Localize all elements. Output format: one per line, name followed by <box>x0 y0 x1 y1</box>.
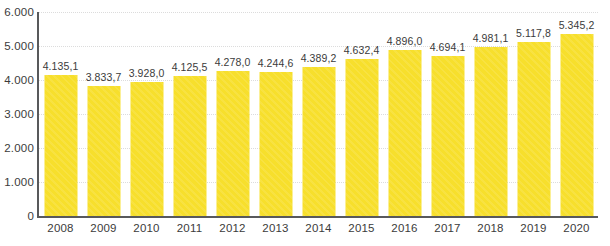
bar-group: 4.981,1 <box>469 12 512 216</box>
x-axis-tick-label: 2014 <box>305 222 331 234</box>
bar[interactable] <box>44 75 77 216</box>
x-axis-tick-label: 2016 <box>391 222 417 234</box>
y-axis-tick-label: 2.000 <box>2 142 34 154</box>
bar-chart: 6.000 5.000 4.000 3.000 2.000 1.000 0 4.… <box>0 0 610 246</box>
bar[interactable] <box>130 82 163 216</box>
bar-value-label: 3.928,0 <box>129 67 165 79</box>
x-axis-tick-label: 2009 <box>90 222 116 234</box>
bar-group: 3.928,0 <box>125 12 168 216</box>
x-axis-tick-label: 2019 <box>520 222 546 234</box>
bar-value-label: 5.117,8 <box>516 27 551 39</box>
bar-group: 3.833,7 <box>82 12 125 216</box>
bar-value-label: 4.135,1 <box>43 60 79 72</box>
x-axis-line <box>37 216 598 218</box>
bar-value-label: 4.694,1 <box>430 41 466 53</box>
x-axis-tick-label: 2018 <box>477 222 503 234</box>
bar-value-label: 4.389,2 <box>301 52 337 64</box>
bar-value-label: 4.981,1 <box>473 32 509 44</box>
bar-group: 4.244,6 <box>254 12 297 216</box>
x-axis-tick-label: 2013 <box>262 222 288 234</box>
bar-group: 5.117,8 <box>512 12 555 216</box>
bar-value-label: 4.244,6 <box>258 57 294 69</box>
bar-value-label: 3.833,7 <box>86 71 122 83</box>
bar-group: 5.345,2 <box>555 12 598 216</box>
bar[interactable] <box>388 50 421 216</box>
bar-group: 4.632,4 <box>340 12 383 216</box>
x-axis-tick-label: 2011 <box>177 222 203 234</box>
x-axis-tick-label: 2008 <box>47 222 73 234</box>
bar-group: 4.694,1 <box>426 12 469 216</box>
bar-group: 4.896,0 <box>383 12 426 216</box>
y-axis-tick-label: 4.000 <box>2 74 34 86</box>
plot-area: 4.135,13.833,73.928,04.125,54.278,04.244… <box>39 12 598 216</box>
x-axis-tick-label: 2017 <box>434 222 460 234</box>
y-axis-tick-label: 1.000 <box>2 176 34 188</box>
y-axis-tick-label: 6.000 <box>2 6 34 18</box>
bar[interactable] <box>302 67 335 216</box>
bar-group: 4.278,0 <box>211 12 254 216</box>
bar-value-label: 4.278,0 <box>215 56 251 68</box>
bar[interactable] <box>517 42 550 216</box>
bar-group: 4.125,5 <box>168 12 211 216</box>
x-axis-tick-label: 2015 <box>348 222 374 234</box>
bar-value-label: 4.632,4 <box>344 44 380 56</box>
bar[interactable] <box>173 76 206 216</box>
bar-value-label: 4.125,5 <box>172 61 208 73</box>
bar-value-label: 4.896,0 <box>387 35 423 47</box>
y-axis-tick-label: 5.000 <box>2 40 34 52</box>
x-axis-tick-label: 2010 <box>133 222 159 234</box>
bar-group: 4.135,1 <box>39 12 82 216</box>
bar-value-label: 5.345,2 <box>559 19 595 31</box>
bar[interactable] <box>474 47 507 216</box>
bar[interactable] <box>345 59 378 217</box>
bar[interactable] <box>431 56 464 216</box>
x-axis-tick-label: 2020 <box>563 222 589 234</box>
x-axis-tick-label: 2012 <box>219 222 245 234</box>
bar[interactable] <box>216 71 249 216</box>
y-axis-tick-label: 3.000 <box>2 108 34 120</box>
y-axis-tick-labels: 6.000 5.000 4.000 3.000 2.000 1.000 0 <box>0 0 34 246</box>
bar-group: 4.389,2 <box>297 12 340 216</box>
y-axis-tick-label: 0 <box>2 210 34 222</box>
bar[interactable] <box>560 34 593 216</box>
bar[interactable] <box>87 86 120 216</box>
bar[interactable] <box>259 72 292 216</box>
